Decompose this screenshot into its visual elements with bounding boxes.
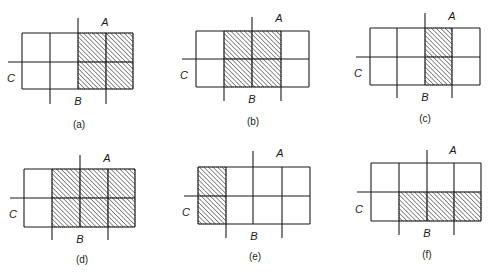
variable-label-c: C [355,203,363,215]
karnaugh-map-a: ABC(a) [7,16,133,130]
variable-label-b: B [248,93,255,105]
variable-label-c: C [354,67,362,79]
map-caption: (f) [422,249,431,260]
variable-label-a: A [275,147,283,159]
shaded-cell [108,198,135,227]
karnaugh-map-f: ABC(f) [355,144,481,260]
shaded-cell [198,167,226,196]
karnaugh-map-d: ABC(d) [9,152,135,265]
karnaugh-maps-figure: ABC(a)ABC(b)ABC(c)ABC(d)ABC(e)ABC(f) [0,0,490,274]
variable-label-b: B [421,91,428,103]
shaded-cell [80,169,108,198]
shaded-cell [224,59,252,87]
variable-label-c: C [7,72,15,84]
variable-label-c: C [182,206,190,218]
shaded-cell [106,33,133,62]
karnaugh-map-c: ABC(c) [354,10,480,124]
variable-label-a: A [100,16,108,28]
shaded-cell [425,28,452,57]
map-caption: (c) [419,113,431,124]
karnaugh-map-b: ABC(b) [180,12,309,127]
variable-label-a: A [447,10,455,22]
shaded-cell [198,196,226,224]
variable-label-a: A [274,12,282,24]
map-caption: (b) [247,116,259,127]
shaded-cell [108,169,135,198]
shaded-cell [399,192,427,221]
variable-label-c: C [180,69,188,81]
maps-container: ABC(a)ABC(b)ABC(c)ABC(d)ABC(e)ABC(f) [7,10,481,265]
shaded-cell [425,57,452,85]
shaded-cell [106,62,133,89]
shaded-cell [252,31,281,59]
shaded-cell [224,31,252,59]
shaded-cell [78,62,106,89]
variable-label-b: B [250,230,257,242]
map-caption: (a) [73,119,85,130]
shaded-cell [78,33,106,62]
shaded-cell [252,59,281,87]
map-caption: (d) [76,254,88,265]
shaded-cell [52,198,80,227]
shaded-cell [454,192,481,221]
shaded-cell [427,192,454,221]
variable-label-c: C [9,208,17,220]
shaded-cell [52,169,80,198]
variable-label-a: A [448,144,456,156]
variable-label-b: B [76,233,83,245]
variable-label-b: B [423,227,430,239]
karnaugh-map-e: ABC(e) [182,147,310,262]
shaded-cell [80,198,108,227]
variable-label-a: A [102,152,110,164]
variable-label-b: B [74,95,81,107]
map-caption: (e) [249,251,261,262]
